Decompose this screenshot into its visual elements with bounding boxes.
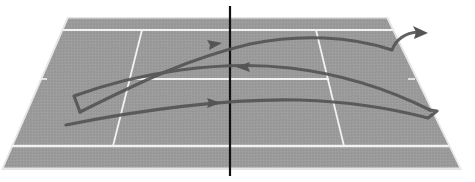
tennis-court-diagram: Tennis court rally shot path Perspective… xyxy=(0,0,475,182)
court-svg xyxy=(0,0,475,182)
